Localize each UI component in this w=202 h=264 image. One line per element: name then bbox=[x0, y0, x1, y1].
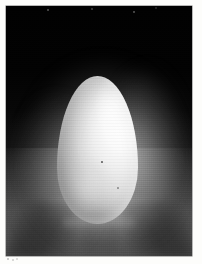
egg-base-shading bbox=[64, 220, 134, 230]
page-canvas bbox=[0, 0, 202, 264]
photo-caption bbox=[6, 257, 192, 263]
photograph bbox=[6, 6, 192, 256]
